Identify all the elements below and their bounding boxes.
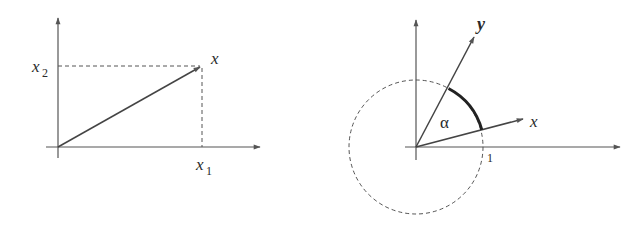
angle-alpha-arc [449, 89, 482, 130]
unit-mark-label: 1 [487, 151, 493, 165]
x1-label: x [195, 155, 204, 174]
vector-x-label: x [210, 49, 219, 68]
left-diagram: x x 2 x 1 [31, 18, 260, 178]
right-diagram: y x α 1 [349, 14, 620, 214]
vector-x-arrow [58, 67, 200, 147]
vector-x-arrow-rotated [416, 119, 523, 147]
vector-y-label: y [475, 14, 486, 34]
x2-subscript: 2 [42, 66, 48, 80]
diagram-canvas: x x 2 x 1 y x α 1 [0, 0, 641, 226]
angle-alpha-label: α [440, 113, 449, 132]
x2-label: x [31, 57, 40, 76]
x1-subscript: 1 [206, 164, 212, 178]
vector-x-label-right: x [529, 112, 538, 131]
